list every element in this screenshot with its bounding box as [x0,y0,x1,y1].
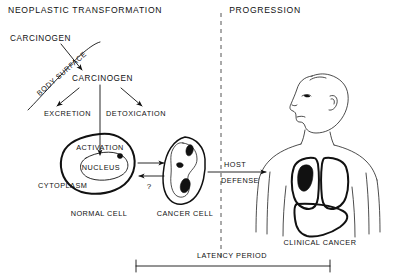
nucleolus-icon [117,154,122,159]
carcinogen-outside-label: CARCINOGEN [10,34,71,43]
page-title-left: NEOPLASTIC TRANSFORMATION [8,5,162,15]
lung-icon [321,158,348,209]
latency-period-bar-icon [136,260,330,272]
excretion-arrow-icon [57,88,79,106]
human-figure-profile-icon [256,74,380,237]
normal-cell-label: NORMAL CELL [71,209,128,218]
liver-icon [294,204,347,237]
cancer-nucleolus-icon [177,163,184,168]
neoplastic-transformation-diagram: NEOPLASTIC TRANSFORMATION PROGRESSION BO… [0,0,400,276]
page-title-right: PROGRESSION [229,5,301,15]
cancer-chromatin-icon [186,145,193,156]
diagram-canvas: NEOPLASTIC TRANSFORMATION PROGRESSION BO… [0,0,400,276]
detoxication-label: DETOXICATION [106,109,166,118]
lung-tumor-icon [298,165,313,191]
activation-label: ACTIVATION [76,143,124,152]
detoxication-arrow-icon [121,88,142,106]
cancer-cell-label: CANCER CELL [157,209,214,218]
cytoplasm-label: CYTOPLASM [38,181,87,190]
defense-label: DEFENSE [221,176,259,185]
excretion-label: EXCRETION [44,109,91,118]
clinical-cancer-label: CLINICAL CANCER [284,238,357,247]
reversion-question-label: ? [147,182,152,191]
nucleus-label: NUCLEUS [82,163,120,172]
latency-period-label: LATENCY PERIOD [197,251,267,260]
carcinogen-inside-label: CARCINOGEN [72,74,133,83]
cancer-cell-icon [163,137,205,204]
host-label: HOST [224,160,246,169]
